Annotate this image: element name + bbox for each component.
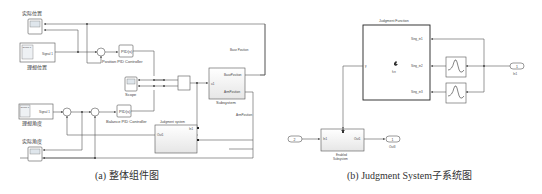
scope-actual-position-label: 实际位置 (22, 10, 42, 17)
caption-b: (b) Judgment System子系统图 (347, 169, 472, 182)
sum-block-angle-2[interactable] (91, 108, 99, 116)
enabled-label-2: Subsystem (333, 157, 348, 161)
judgment-port-out: Out1 (157, 133, 164, 137)
subsystem-port-in: u1 (211, 82, 215, 86)
outport-1-label: Out3 (389, 145, 396, 149)
subsystem-port-base: BasePosition (224, 73, 242, 77)
sum-block-angle-1[interactable] (63, 108, 71, 116)
pid-balance-label: Balance PID Controller (106, 119, 147, 124)
signal-angle-label: 理想角度 (22, 120, 42, 127)
caption-a: (a) 整体组件图 (95, 169, 159, 182)
port-sing-in1: Sing_in1 (411, 37, 423, 41)
judgment-port-in: In1 (189, 127, 194, 131)
signal-port-label: Signal 1 (39, 110, 50, 114)
sum-block-position[interactable] (97, 48, 105, 56)
scope-actual-angle-label: 实际角度 (22, 138, 42, 145)
enabled-port-in: In1 (323, 137, 328, 141)
scope-actual-angle[interactable]: 实际角度 (22, 138, 42, 161)
outport-1[interactable]: 1 Out3 (386, 136, 400, 149)
outport-1-number: 1 (392, 138, 394, 142)
scope-screen-icon (127, 79, 135, 84)
group-label: Group 1 (21, 106, 30, 109)
panel-a: 实际位置 Group 1 Signal 1 理想位置 PID(s) (19, 10, 265, 182)
port-sing-in2: Sing_in2 (411, 64, 423, 68)
inport-2[interactable]: 2 (288, 136, 302, 142)
pid-balance-controller[interactable]: PID(s) Balance PID Controller (106, 105, 147, 124)
mux-block[interactable] (178, 76, 190, 90)
inport-1[interactable]: 1 In1 (510, 63, 524, 76)
enabled-subsystem-block[interactable]: In1 Out1 Enabled Subsystem (321, 129, 364, 161)
scope-main-label: Scope (125, 92, 137, 97)
subsystem-label: Subsystem (216, 100, 236, 105)
judgment-function-block[interactable]: Judgment Function y fcn Sing_in1 Sing_in… (363, 19, 430, 100)
subsystem-port-arm: ArmPosition (224, 90, 241, 94)
signal-port-label: Signal 1 (42, 52, 53, 56)
inport-1-number: 1 (516, 65, 518, 69)
judgment-function-title: Judgment Function (379, 19, 409, 23)
panel-b: Judgment Function y fcn Sing_in1 Sing_in… (288, 19, 524, 182)
fcn-label: fcn (392, 70, 396, 74)
judgment-system-block[interactable]: Judgment system Out1 In1 (155, 120, 197, 153)
subsystem-block[interactable]: u1 BasePosition ArmPosition Subsystem (209, 68, 245, 105)
group-label: Group 1 (23, 46, 32, 49)
wire-label-base: Base Position (230, 48, 249, 52)
filter-block-2[interactable] (446, 83, 466, 103)
wire-label-arm: ArmPosition (236, 113, 253, 117)
inport-1-label: In1 (513, 72, 518, 76)
enabled-port-out: Out1 (354, 137, 361, 141)
inport-2-number: 2 (294, 138, 296, 142)
pid-text: PID(s) (119, 109, 131, 114)
scope-screen-icon (30, 21, 40, 27)
diagram-canvas: 实际位置 Group 1 Signal 1 理想位置 PID(s) (0, 0, 542, 194)
scope-main[interactable]: Scope (125, 77, 137, 97)
pid-position-label: Position PID Controller (102, 59, 143, 64)
pid-text: PID(s) (121, 49, 133, 54)
signal-position-label: 理想位置 (27, 64, 47, 71)
signal-builder-position[interactable]: Group 1 Signal 1 理想位置 (20, 43, 55, 71)
pid-position-controller[interactable]: PID(s) Position PID Controller (102, 45, 143, 64)
scope-screen-icon (30, 149, 40, 154)
signal-builder-angle[interactable]: Group 1 Signal 1 理想角度 (19, 104, 53, 127)
scope-actual-position[interactable]: 实际位置 (22, 10, 42, 34)
filter-block-1[interactable] (446, 57, 466, 77)
port-sing-in3: Sing_in3 (411, 90, 423, 94)
judgment-system-title: Judgment system (160, 120, 185, 124)
